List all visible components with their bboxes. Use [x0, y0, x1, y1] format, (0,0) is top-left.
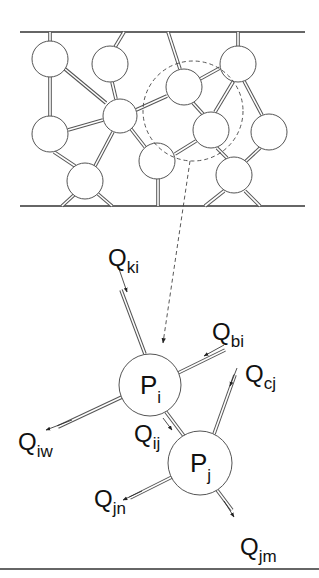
- pore-pi: Pi: [119, 354, 181, 416]
- throat: [131, 129, 145, 147]
- pore: [32, 41, 68, 77]
- throat-qki: [121, 290, 145, 354]
- throat: [175, 141, 196, 154]
- pore: [216, 157, 252, 193]
- callout-arrow: [163, 161, 190, 343]
- throat: [95, 132, 113, 166]
- flow-label-qbi: Qbi: [212, 318, 244, 351]
- throat: [205, 191, 224, 206]
- throat: [68, 120, 103, 130]
- throat-qbi: [178, 350, 225, 373]
- pore: [220, 46, 256, 82]
- flow-label-qij: Qij: [134, 420, 160, 453]
- throat: [112, 82, 116, 99]
- pore: [139, 143, 175, 179]
- flow-label-qiw: Qiw: [18, 428, 53, 461]
- throat: [200, 68, 220, 79]
- throat: [115, 32, 124, 47]
- throat: [245, 148, 260, 162]
- flow-label-qki: Qki: [108, 244, 139, 277]
- throat: [98, 194, 112, 206]
- pore: [251, 114, 287, 150]
- pore: [166, 69, 202, 105]
- throat-qcj: [214, 375, 235, 434]
- throat: [245, 191, 260, 206]
- throat-qiw: [58, 397, 122, 427]
- flow-label-qjm: Qjm: [240, 533, 277, 566]
- pore: [193, 112, 229, 148]
- throat: [193, 103, 203, 114]
- throat-qjm: [217, 490, 232, 510]
- pore: [32, 116, 68, 152]
- pore: [103, 99, 137, 133]
- pore: [92, 46, 128, 82]
- throat: [244, 81, 262, 115]
- throat: [136, 96, 167, 110]
- throat: [54, 152, 75, 166]
- throat: [215, 82, 233, 112]
- callout-line: [163, 161, 190, 343]
- throat-qij: [166, 412, 184, 436]
- pore-network-diagram: PiPjQkiQbiQcjQiwQijQjnQjm: [0, 0, 319, 578]
- pore-pj: Pj: [168, 431, 232, 495]
- flow-label-qjn: Qjn: [94, 485, 126, 518]
- throat-qjn: [130, 477, 172, 498]
- pore-network: [20, 32, 305, 206]
- pore-detail: PiPjQkiQbiQcjQiwQijQjnQjm: [18, 244, 277, 566]
- pore: [67, 163, 103, 199]
- flow-label-qcj: Qcj: [245, 360, 276, 393]
- throat: [62, 195, 74, 206]
